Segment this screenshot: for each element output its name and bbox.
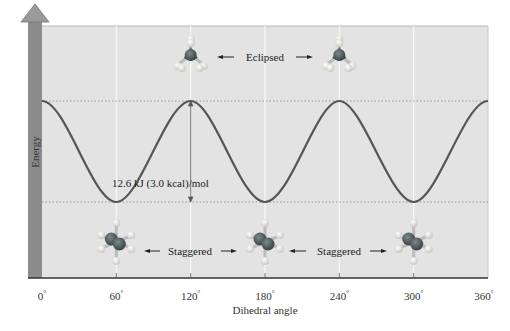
svg-text:120°: 120° <box>181 289 201 302</box>
svg-text:240°: 240° <box>330 289 350 302</box>
svg-text:0°: 0° <box>38 289 47 302</box>
energy-diagram: 12.6 kJ (3.0 kcal)/mol Energy 0° 60° 120… <box>0 0 510 331</box>
eclipsed-label: Eclipsed <box>246 51 284 63</box>
x-tick-labels: 0° 60° 120° 180° 240° 300° 360° <box>38 289 494 302</box>
svg-text:300°: 300° <box>404 289 424 302</box>
svg-text:180°: 180° <box>255 289 275 302</box>
staggered-label-2: Staggered <box>317 245 361 257</box>
x-axis-title: Dihedral angle <box>232 304 297 316</box>
svg-text:60°: 60° <box>109 289 123 302</box>
barrier-label: 12.6 kJ (3.0 kcal)/mol <box>112 177 209 190</box>
energy-axis-label: Energy <box>29 136 41 168</box>
staggered-label-1: Staggered <box>168 245 212 257</box>
svg-text:360°: 360° <box>474 289 494 302</box>
